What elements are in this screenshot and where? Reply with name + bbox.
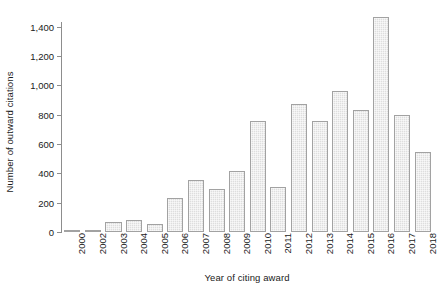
x-tick-label-2016: 2016	[385, 233, 396, 254]
bar-2005	[147, 224, 163, 232]
bar-2008	[209, 189, 225, 232]
y-tick-label: 600	[38, 139, 54, 150]
bar-2018	[415, 152, 431, 232]
plot-area: 02004006008001,0001,2001,400	[61, 12, 433, 232]
x-tick-label-2013: 2013	[324, 233, 335, 254]
bar-chart-figure: Number of outward citations 020040060080…	[0, 0, 443, 293]
x-tick-label-2012: 2012	[303, 233, 314, 254]
x-tick-label-2003: 2003	[118, 233, 129, 254]
bar-2013	[312, 121, 328, 232]
y-tick-label: 1,000	[30, 80, 54, 91]
x-axis-tick-labels: 2000200220032004200520062007200820092010…	[62, 233, 433, 269]
bar-2016	[373, 17, 389, 232]
x-tick-label-2011: 2011	[282, 233, 293, 253]
bar-2006	[167, 198, 183, 232]
x-tick-label-2000: 2000	[76, 233, 87, 254]
bar-2000	[64, 230, 80, 232]
x-tick-label-2014: 2014	[344, 233, 355, 254]
x-tick-label-2006: 2006	[179, 233, 190, 254]
x-tick-label-2015: 2015	[365, 233, 376, 254]
bar-2014	[332, 91, 348, 232]
bar-2012	[291, 104, 307, 232]
x-tick-label-2007: 2007	[200, 233, 211, 254]
bar-2015	[353, 110, 369, 232]
bar-2004	[126, 220, 142, 232]
y-tick-label: 1,400	[30, 21, 54, 32]
bar-2009	[229, 171, 245, 232]
y-tick-label: 0	[49, 227, 54, 238]
bar-series	[62, 12, 433, 232]
x-tick-label-2009: 2009	[241, 233, 252, 254]
x-tick-label-2002: 2002	[97, 233, 108, 254]
bar-2010	[250, 121, 266, 232]
x-tick-label-2018: 2018	[427, 233, 438, 254]
bar-2002	[85, 230, 101, 232]
bar-2017	[394, 115, 410, 232]
x-tick-label-2008: 2008	[221, 233, 232, 254]
bar-2003	[105, 222, 121, 232]
x-tick-label-2004: 2004	[138, 233, 149, 254]
y-tick-label: 1,200	[30, 51, 54, 62]
y-axis-title: Number of outward citations	[2, 16, 18, 248]
x-axis-title: Year of citing award	[61, 272, 433, 283]
y-tick-label: 400	[38, 168, 54, 179]
y-tick-label: 200	[38, 197, 54, 208]
y-tick-label: 800	[38, 109, 54, 120]
x-tick-label-2017: 2017	[406, 233, 417, 254]
x-tick-label-2005: 2005	[159, 233, 170, 254]
x-tick-label-2010: 2010	[262, 233, 273, 254]
bar-2011	[270, 187, 286, 232]
bar-2007	[188, 180, 204, 232]
